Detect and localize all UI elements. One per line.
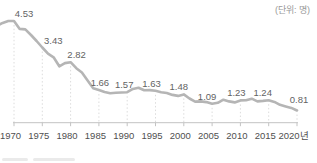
- x-tick-label: 1975: [28, 130, 49, 141]
- fertility-rate-line-chart: 4.533.432.821.661.571.631.481.091.231.24…: [0, 0, 317, 163]
- x-tick-label: 2020년: [278, 130, 308, 141]
- value-label: 1.57: [115, 79, 134, 90]
- x-tick-label: 1970: [0, 130, 21, 141]
- value-label: 1.24: [253, 87, 272, 98]
- x-tick-label: 1985: [85, 130, 106, 141]
- value-label: 1.63: [142, 78, 161, 89]
- trend-line: [0, 21, 297, 111]
- value-label: 1.09: [198, 91, 217, 102]
- x-tick-label: 2015: [255, 130, 276, 141]
- value-label: 4.53: [15, 8, 34, 19]
- value-label: 1.48: [170, 81, 189, 92]
- value-label: 1.66: [91, 77, 110, 88]
- value-label: 3.43: [44, 35, 63, 46]
- x-tick-label: 2000: [170, 130, 191, 141]
- value-label: 0.81: [290, 94, 309, 105]
- fertility-rate-chart-card: (단위: 명) 4.533.432.821.661.571.631.481.09…: [0, 0, 317, 163]
- cropped-footnote-fragment: [2, 158, 28, 161]
- x-tick-label: 1995: [141, 130, 162, 141]
- value-label: 2.82: [67, 49, 86, 60]
- cropped-footnote-fragment: [33, 158, 75, 161]
- value-label: 1.23: [227, 87, 246, 98]
- x-tick-label: 1990: [113, 130, 134, 141]
- x-tick-label: 2005: [198, 130, 219, 141]
- x-tick-label: 1980: [57, 130, 78, 141]
- x-tick-label: 2010: [226, 130, 247, 141]
